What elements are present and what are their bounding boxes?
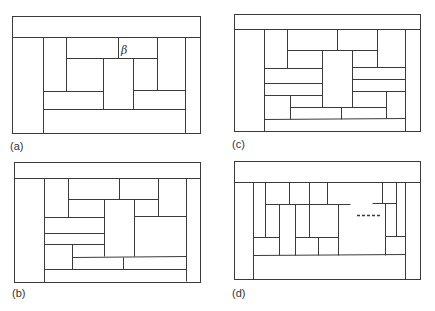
panel-a-frame	[13, 17, 201, 134]
panel-c-frame	[235, 15, 421, 132]
panel-b: (b)	[12, 163, 201, 300]
panel-a-label: (a)	[10, 140, 23, 152]
panel-c: (c)	[232, 15, 421, 151]
panel-b-frame	[15, 163, 201, 283]
panel-c-label: (c)	[232, 138, 245, 150]
panel-d: (d)	[232, 162, 421, 300]
figure-canvas: β (a) (c)	[0, 0, 435, 311]
panel-b-label: (b)	[12, 287, 25, 299]
panel-d-frame	[235, 162, 421, 280]
beta-annotation: β	[120, 44, 127, 57]
panel-d-label: (d)	[232, 287, 245, 299]
panel-a: β (a)	[10, 17, 201, 153]
